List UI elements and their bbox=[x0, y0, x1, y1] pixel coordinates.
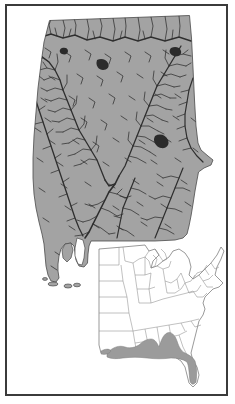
inset-map-canvas bbox=[93, 235, 226, 394]
figure-frame-border bbox=[5, 4, 228, 396]
inset-national-outline bbox=[99, 245, 224, 387]
coastal-barrier-islands bbox=[43, 278, 81, 288]
eastern-us-range-inset bbox=[93, 235, 226, 394]
figure-panel bbox=[7, 6, 226, 394]
map-figure bbox=[0, 0, 235, 404]
